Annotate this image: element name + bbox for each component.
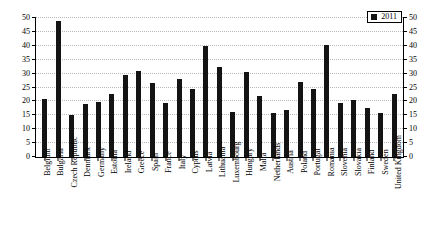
y-axis-label: 10: [409, 125, 417, 133]
bar-slot: [334, 18, 347, 157]
bar-slot: [374, 18, 387, 157]
y-axis-tick: [403, 45, 407, 46]
y-axis-label: 20: [22, 97, 30, 105]
y-axis-tick: [403, 114, 407, 115]
bar-slot: [51, 18, 64, 157]
bar-slot: [186, 18, 199, 157]
plot-area: 05101520253035404550 0510152025303540455…: [35, 18, 404, 158]
x-label-slot: Austria: [280, 160, 294, 244]
bar-slot: [320, 18, 333, 157]
x-axis-category-labels: BelgiumBulgariaCzech RepublicDenmarkGerm…: [35, 160, 404, 244]
y-axis-label: 35: [22, 56, 30, 64]
y-axis-label: 15: [22, 111, 30, 119]
y-axis-tick: [403, 156, 407, 157]
bar: [298, 82, 303, 157]
bar-chart: 05101520253035404550 0510152025303540455…: [0, 0, 438, 244]
bar-slot: [347, 18, 360, 157]
bar-slot: [293, 18, 306, 157]
bar: [244, 72, 249, 157]
y-axis-label: 30: [22, 70, 30, 78]
y-axis-label: 5: [409, 139, 413, 147]
y-axis-tick: [403, 128, 407, 129]
x-label-slot: Finland: [361, 160, 375, 244]
bar: [217, 67, 222, 157]
bar-slot: [361, 18, 374, 157]
bar-slot: [266, 18, 279, 157]
y-axis-label: 40: [22, 42, 30, 50]
x-label-slot: Czech Republic: [64, 160, 78, 244]
y-axis-tick: [403, 73, 407, 74]
y-axis-label: 45: [409, 28, 417, 36]
y-axis-label: 50: [22, 14, 30, 22]
y-axis-label: 5: [26, 139, 30, 147]
y-axis-tick: [403, 17, 407, 18]
x-label-slot: Bulgaria: [51, 160, 65, 244]
y-axis-label: 35: [409, 56, 417, 64]
x-label-slot: Slovenia: [334, 160, 348, 244]
bar: [136, 71, 141, 157]
bar-slot: [132, 18, 145, 157]
bar-slot: [78, 18, 91, 157]
x-label-slot: Sweden: [375, 160, 389, 244]
bar: [56, 21, 61, 157]
bar-slot: [38, 18, 51, 157]
x-label-slot: Spain: [145, 160, 159, 244]
bar: [177, 79, 182, 157]
x-label-slot: Romania: [321, 160, 335, 244]
bar: [109, 94, 114, 157]
y-axis-tick: [403, 100, 407, 101]
y-axis-label: 25: [409, 84, 417, 92]
x-label-slot: Latvia: [199, 160, 213, 244]
bar-slot: [92, 18, 105, 157]
legend-label-2011: 2011: [381, 13, 397, 21]
bar: [190, 89, 195, 157]
y-axis-label: 40: [409, 42, 417, 50]
x-label-slot: Poland: [294, 160, 308, 244]
bar: [203, 46, 208, 157]
x-label-slot: Belgium: [37, 160, 51, 244]
bar-slot: [240, 18, 253, 157]
bar: [324, 45, 329, 157]
y-axis-tick: [403, 31, 407, 32]
bar: [163, 103, 168, 157]
y-axis-label: 30: [409, 70, 417, 78]
x-label-slot: Luxembourg: [226, 160, 240, 244]
bar: [123, 75, 128, 157]
y-axis-label: 15: [409, 111, 417, 119]
y-axis-tick: [403, 87, 407, 88]
y-axis-tick: [403, 59, 407, 60]
x-label-slot: Greece: [132, 160, 146, 244]
bar-slot: [213, 18, 226, 157]
y-axis-label: 0: [26, 153, 30, 161]
bar-slot: [253, 18, 266, 157]
bar-slot: [119, 18, 132, 157]
bar-slot: [105, 18, 118, 157]
x-label-slot: Ireland: [118, 160, 132, 244]
x-label-slot: Germany: [91, 160, 105, 244]
bar-series-2011: [36, 18, 403, 157]
x-label-slot: Italy: [172, 160, 186, 244]
bar: [150, 83, 155, 157]
x-label-slot: France: [159, 160, 173, 244]
bar-slot: [307, 18, 320, 157]
x-label-slot: Lithuania: [213, 160, 227, 244]
y-axis-label: 45: [22, 28, 30, 36]
bar-slot: [172, 18, 185, 157]
x-label-slot: Cyprus: [186, 160, 200, 244]
bar-slot: [146, 18, 159, 157]
x-label-slot: Hungary: [240, 160, 254, 244]
x-label-slot: Estonia: [105, 160, 119, 244]
y-axis-label: 50: [409, 14, 417, 22]
y-axis-label: 25: [22, 84, 30, 92]
x-label-slot: United Kingdom: [388, 160, 402, 244]
legend: 2011: [367, 11, 402, 23]
bar-slot: [280, 18, 293, 157]
bar-slot: [226, 18, 239, 157]
bar-slot: [159, 18, 172, 157]
y-axis-label: 0: [409, 153, 413, 161]
bar-slot: [199, 18, 212, 157]
y-axis-tick: [403, 142, 407, 143]
x-label-slot: Malta: [253, 160, 267, 244]
x-label-slot: Portugal: [307, 160, 321, 244]
y-axis-label: 20: [409, 97, 417, 105]
